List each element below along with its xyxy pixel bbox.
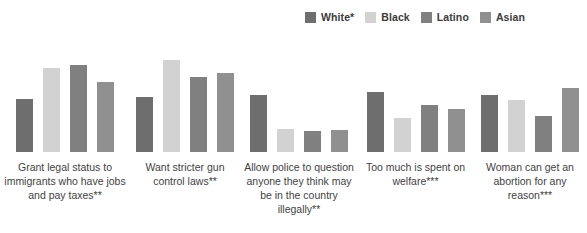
bar-rect bbox=[481, 95, 498, 152]
bar-asian[interactable]: 54% bbox=[97, 0, 114, 152]
bar-group: 44%18%16%17%Allow police to question any… bbox=[240, 0, 358, 233]
category-label: Allow police to question anyone they thi… bbox=[240, 160, 358, 216]
bar-rect bbox=[97, 82, 114, 152]
bar-white[interactable]: 42% bbox=[136, 0, 153, 152]
bar-black[interactable]: 65% bbox=[43, 0, 60, 152]
bar-black[interactable]: 71% bbox=[163, 0, 180, 152]
bar-rect bbox=[562, 88, 579, 152]
bar-rect bbox=[331, 130, 348, 152]
bar-rect bbox=[43, 68, 60, 153]
bar-group: 42%71%58%61%Want stricter gun control la… bbox=[130, 0, 240, 233]
bar-group-bars: 42%71%58%61% bbox=[130, 0, 240, 152]
bar-black[interactable]: 18% bbox=[277, 0, 294, 152]
bar-latino[interactable]: 58% bbox=[190, 0, 207, 152]
bar-rect bbox=[190, 77, 207, 152]
bar-group: 41%65%67%54%Grant legal status to immigr… bbox=[0, 0, 130, 233]
bar-rect bbox=[163, 60, 180, 152]
bar-rect bbox=[217, 73, 234, 152]
bar-group-bars: 44%18%16%17% bbox=[240, 0, 358, 152]
bar-latino[interactable]: 67% bbox=[70, 0, 87, 152]
bar-rect bbox=[535, 116, 552, 152]
bar-white[interactable]: 44% bbox=[481, 0, 498, 152]
bar-white[interactable]: 46% bbox=[367, 0, 384, 152]
bar-group: 46%26%36%33%Too much is spent on welfare… bbox=[358, 0, 473, 233]
bar-black[interactable]: 40% bbox=[508, 0, 525, 152]
bar-asian[interactable]: 61% bbox=[217, 0, 234, 152]
bar-latino[interactable]: 28% bbox=[535, 0, 552, 152]
grouped-bar-chart: White* Black Latino Asian 41%65%67%54%Gr… bbox=[0, 0, 587, 233]
bar-rect bbox=[421, 105, 438, 152]
bar-rect bbox=[448, 109, 465, 152]
category-label: Woman can get an abortion for any reason… bbox=[473, 160, 587, 202]
bar-latino[interactable]: 16% bbox=[304, 0, 321, 152]
bar-asian[interactable]: 33% bbox=[448, 0, 465, 152]
bar-asian[interactable]: 17% bbox=[331, 0, 348, 152]
plot-area: 41%65%67%54%Grant legal status to immigr… bbox=[0, 0, 587, 233]
bar-asian[interactable]: 49% bbox=[562, 0, 579, 152]
bar-rect bbox=[70, 65, 87, 152]
bar-group-bars: 41%65%67%54% bbox=[0, 0, 130, 152]
category-label: Grant legal status to immigrants who hav… bbox=[0, 160, 130, 202]
bar-rect bbox=[367, 92, 384, 152]
bar-rect bbox=[250, 95, 267, 152]
bar-rect bbox=[16, 99, 33, 152]
bar-rect bbox=[277, 129, 294, 152]
bar-black[interactable]: 26% bbox=[394, 0, 411, 152]
bar-rect bbox=[136, 97, 153, 152]
bar-group-bars: 44%40%28%49% bbox=[473, 0, 587, 152]
bar-group: 44%40%28%49%Woman can get an abortion fo… bbox=[473, 0, 587, 233]
bar-rect bbox=[394, 118, 411, 152]
bar-latino[interactable]: 36% bbox=[421, 0, 438, 152]
bar-white[interactable]: 41% bbox=[16, 0, 33, 152]
bar-white[interactable]: 44% bbox=[250, 0, 267, 152]
category-label: Too much is spent on welfare*** bbox=[358, 160, 473, 188]
bar-group-bars: 46%26%36%33% bbox=[358, 0, 473, 152]
bar-rect bbox=[508, 100, 525, 152]
category-label: Want stricter gun control laws** bbox=[130, 160, 240, 188]
bar-rect bbox=[304, 131, 321, 152]
